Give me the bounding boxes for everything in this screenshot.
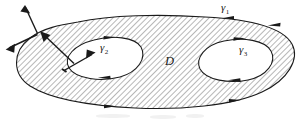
gamma-2-symbol: γ [100,41,104,53]
gamma-2-subscript: 2 [105,48,109,56]
scan-artifact-right [186,114,204,118]
label-gamma-1: γ1 [221,2,229,13]
gamma-1-subscript: 1 [226,8,230,16]
figure-canvas: γ1 γ2 γ3 D [0,0,307,123]
gamma-1-symbol: γ [221,1,225,13]
label-region-d: D [165,55,174,68]
scan-artifact-left [96,114,130,118]
scan-artifact-center [150,115,176,119]
diagram-svg [0,0,307,123]
label-gamma-2: γ2 [100,42,108,53]
gamma-3-subscript: 3 [244,50,248,58]
label-gamma-3: γ3 [239,44,247,55]
gamma-3-symbol: γ [239,43,243,55]
